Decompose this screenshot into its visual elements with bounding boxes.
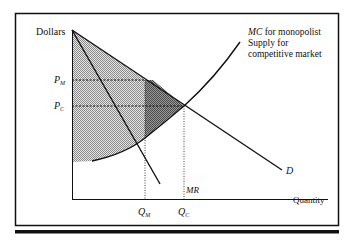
qc-label: QC — [178, 206, 190, 218]
supply-label-line2: competitive market — [248, 49, 322, 59]
bottom-rule — [15, 230, 339, 234]
monopoly-diagram: Dollars Quantity PM PC QM QC D MR MC for… — [0, 0, 351, 243]
qm-label: QM — [138, 206, 151, 218]
pc-label: PC — [53, 100, 65, 112]
supply-label-line1: Supply for — [248, 38, 289, 48]
deadweight-loss-region — [145, 80, 184, 138]
pm-label: PM — [53, 74, 66, 86]
mc-label: MC for monopolist — [247, 27, 321, 37]
y-axis-label: Dollars — [36, 26, 66, 37]
x-axis-label: Quantity — [293, 195, 325, 205]
mr-label: MR — [185, 185, 199, 195]
demand-label: D — [285, 165, 294, 176]
frame-border — [16, 14, 339, 226]
